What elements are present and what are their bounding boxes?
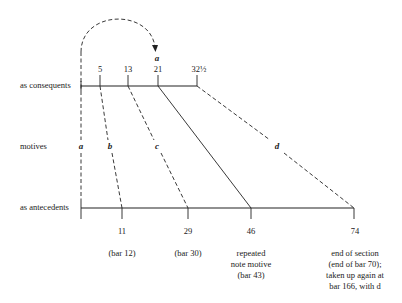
note-46-line-3: (bar 43) <box>237 270 264 280</box>
antecedents-row-label: as antecedents <box>20 202 69 212</box>
consequents-row-label: as consequents <box>20 80 71 90</box>
note-46-line-2: note motive <box>231 259 272 269</box>
note-74-line-3: taken up again at <box>326 270 384 280</box>
arc-motive-label-a: a <box>155 53 160 63</box>
motive-d-line-lower <box>284 153 354 208</box>
consequent-label-5: 5 <box>98 64 102 74</box>
motive-label-a: a <box>79 141 84 151</box>
consequent-label-32-half: 32½ <box>192 64 208 74</box>
antecedent-label-74: 74 <box>351 226 360 236</box>
antecedent-label-29: 29 <box>184 226 193 236</box>
motives-row-label: motives <box>20 141 47 151</box>
motive-c-line-lower <box>161 153 188 208</box>
note-29-line-1: (bar 30) <box>174 248 201 258</box>
motive-label-b: b <box>108 141 113 151</box>
note-46-line-1: repeated <box>237 248 267 258</box>
motive-c-line-upper <box>128 86 154 140</box>
antecedent-label-46: 46 <box>247 226 256 236</box>
note-74-line-4: bar 166, with d <box>329 281 381 291</box>
consequent-label-13: 13 <box>124 64 133 74</box>
motive-b-line-upper <box>100 86 108 140</box>
note-74-line-2: (end of bar 70); <box>328 259 381 269</box>
note-74-line-1: end of section <box>331 248 379 258</box>
motive-b-line-lower <box>112 153 122 208</box>
motive-a-arc <box>81 19 155 52</box>
repeated-note-line <box>158 86 251 208</box>
motive-d-line-upper <box>197 86 270 140</box>
note-11-line-1: (bar 12) <box>108 248 135 258</box>
arc-arrowhead-icon <box>152 45 158 52</box>
motive-diagram: as consequents motives as antecedents 5 … <box>0 0 402 303</box>
motive-label-d: d <box>275 141 280 151</box>
consequent-label-21: 21 <box>154 64 163 74</box>
antecedent-label-11: 11 <box>118 226 126 236</box>
motive-label-c: c <box>155 141 159 151</box>
